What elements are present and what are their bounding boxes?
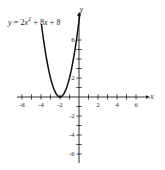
x-tick-label: 4 bbox=[115, 101, 119, 108]
x-tick-label: -4 bbox=[38, 101, 44, 108]
x-tick-label: 2 bbox=[96, 101, 99, 108]
parabola-curve bbox=[41, 13, 79, 97]
x-tick-label: -2 bbox=[57, 101, 62, 108]
y-tick-label: -6 bbox=[69, 150, 75, 157]
x-axis-label: x bbox=[149, 92, 154, 101]
y-tick-label: -2 bbox=[69, 112, 74, 119]
y-tick-label: 2 bbox=[71, 74, 74, 81]
y-tick-label: 6 bbox=[71, 36, 75, 43]
graph-figure: y = 2x2 + 8x + 8 bbox=[0, 0, 165, 170]
x-tick-label: 6 bbox=[134, 101, 138, 108]
x-tick-label: -6 bbox=[19, 101, 25, 108]
y-tick-label: -4 bbox=[69, 131, 75, 138]
coordinate-plane: -6 -4 -2 2 4 6 6 2 -2 -4 -6 x y bbox=[0, 0, 165, 170]
